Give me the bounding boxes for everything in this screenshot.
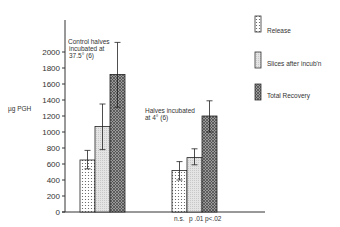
- y-axis-label: µg PGH: [8, 105, 32, 113]
- y-tick-label: 800: [47, 144, 61, 153]
- y-tick-label: 1800: [42, 64, 60, 73]
- y-tick-label: 1400: [42, 96, 60, 105]
- bar-slices-after-incub-n: [187, 158, 202, 212]
- legend-label-slices: Slices after incub'n: [267, 60, 322, 67]
- svg-text:at 4° (6): at 4° (6): [145, 114, 168, 122]
- group2-annotation: Halves incubated at 4° (6): [145, 107, 195, 122]
- y-axis: 0200400600800100012001400160018002000: [42, 20, 65, 217]
- y-tick-label: 400: [47, 176, 61, 185]
- y-tick-label: 0: [56, 208, 61, 217]
- legend-swatch-slices: [255, 52, 261, 68]
- svg-text:Halves incubated: Halves incubated: [145, 107, 195, 114]
- legend-swatch-total: [255, 84, 261, 100]
- svg-text:37.5° (6): 37.5° (6): [69, 52, 94, 60]
- group1-annotation: Control halves incubated at 37.5° (6): [68, 38, 110, 60]
- svg-text:Control halves: Control halves: [68, 38, 110, 45]
- legend-label-release: Release: [267, 27, 291, 34]
- svg-text:p .01: p .01: [189, 215, 204, 223]
- y-tick-label: 1600: [42, 80, 60, 89]
- legend: Release Slices after incub'n Total Recov…: [255, 16, 322, 100]
- svg-text:n.s.: n.s.: [174, 215, 185, 222]
- significance-labels: n.s. p .01 p<.02: [174, 215, 222, 223]
- legend-label-total: Total Recovery: [267, 92, 311, 100]
- y-tick-label: 2000: [42, 48, 60, 57]
- y-tick-label: 1000: [42, 128, 60, 137]
- svg-text:p<.02: p<.02: [205, 215, 222, 223]
- bar-chart: 0200400600800100012001400160018002000 µg…: [0, 0, 340, 227]
- y-tick-label: 200: [47, 192, 61, 201]
- svg-text:incubated at: incubated at: [69, 45, 105, 52]
- bars: [80, 42, 217, 212]
- y-tick-label: 1200: [42, 112, 60, 121]
- legend-swatch-release: [255, 16, 261, 32]
- y-tick-label: 600: [47, 160, 61, 169]
